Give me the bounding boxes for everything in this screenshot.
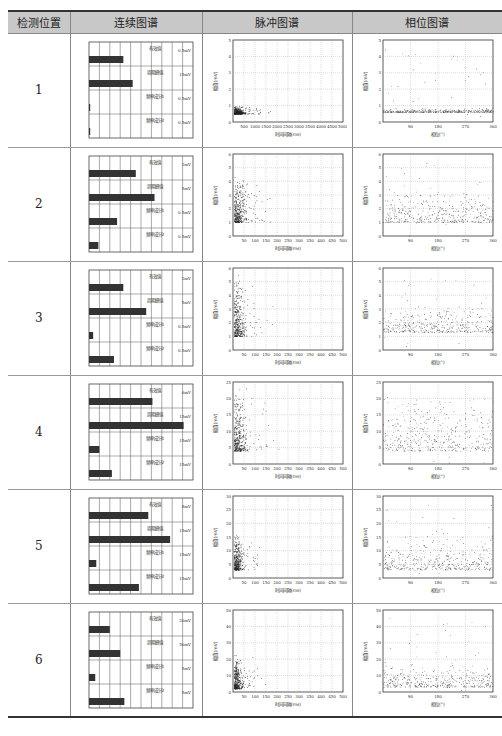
svg-text:350: 350 [306,466,314,471]
svg-text:50: 50 [226,607,232,612]
header-pulse: 脉冲图谱 [202,11,352,33]
svg-text:250: 250 [284,466,292,471]
svg-text:4500: 4500 [327,124,338,129]
svg-text:0: 0 [379,462,382,467]
detection-results-table: 检测位置 连续图谱 脉冲图谱 相位图谱 1有效值0.5mV周期峰值15mV频率成… [8,10,502,718]
continuous-unit: 15mV [179,576,191,581]
continuous-cell: 有效值0.5mV周期峰值15mV频率成分10.5mV频率成分20.5mV [70,33,202,147]
continuous-spectrum-chart: 有效值8mV周期峰值15mV频率成分115mV频率成分215mV [75,494,197,598]
continuous-label: 频率成分2 [146,117,165,124]
svg-text:450: 450 [328,580,336,585]
svg-text:360: 360 [489,124,497,129]
svg-text:30: 30 [226,640,232,645]
svg-text:幅值(mV): 幅值(mV) [362,71,369,90]
svg-text:10: 10 [376,429,382,434]
svg-text:3: 3 [379,307,382,312]
continuous-label: 周期峰值 [147,69,164,76]
continuous-spectrum-chart: 有效值0.5mV周期峰值15mV频率成分10.5mV频率成分20.5mV [75,38,197,142]
svg-text:90: 90 [408,466,414,471]
svg-text:3: 3 [379,193,382,198]
svg-text:40: 40 [226,624,232,629]
svg-text:400: 400 [317,694,325,699]
svg-text:5: 5 [228,38,231,43]
position-cell: 2 [8,147,70,261]
continuous-unit: 15mV [179,528,191,533]
svg-text:150: 150 [262,694,270,699]
svg-text:相位(°): 相位(°) [431,359,445,366]
phase-cell: 051015202590180270360幅值(mV)相位(°) [352,375,502,489]
svg-text:6: 6 [228,152,231,157]
svg-text:时间间隔(ms): 时间间隔(ms) [275,359,301,366]
svg-text:幅值(mV): 幅值(mV) [362,527,369,546]
svg-text:25: 25 [376,380,382,385]
continuous-label: 周期峰值 [147,297,164,304]
table-header-row: 检测位置 连续图谱 脉冲图谱 相位图谱 [8,11,502,33]
svg-text:1500: 1500 [261,124,272,129]
continuous-unit: 0.5mV [178,48,191,53]
svg-text:1: 1 [228,103,231,108]
continuous-label: 频率成分2 [146,231,165,238]
svg-text:0: 0 [379,234,382,239]
continuous-unit: 20mV [179,618,191,623]
svg-text:180: 180 [434,694,442,699]
pulse-cell: 0123455001000150020002500300035004000450… [202,33,352,147]
svg-text:2500: 2500 [283,124,294,129]
pulse-cell: 0510152025305010015020025030035040045050… [202,489,352,603]
svg-text:300: 300 [295,580,303,585]
svg-text:350: 350 [306,580,314,585]
svg-text:5: 5 [228,165,231,170]
table-row: 1有效值0.5mV周期峰值15mV频率成分10.5mV频率成分20.5mV012… [8,33,502,147]
svg-text:15: 15 [226,535,232,540]
table-row: 4有效值6mV周期峰值15mV频率成分115mV频率成分215mV0510152… [8,375,502,489]
svg-text:360: 360 [489,238,497,243]
continuous-spectrum-chart: 有效值6mV周期峰值15mV频率成分115mV频率成分215mV [75,380,197,484]
continuous-unit: 2mV [182,162,191,167]
svg-text:200: 200 [273,352,281,357]
continuous-unit: 15mV [179,72,191,77]
continuous-label: 频率成分1 [146,435,165,442]
svg-text:幅值(mV): 幅值(mV) [362,299,369,318]
svg-text:2000: 2000 [272,124,283,129]
pulse-cell: 051015202550100150200250300350400450500幅… [202,375,352,489]
continuous-spectrum-chart: 有效值2mV周期峰值5mV频率成分10.5mV频率成分20.5mV [75,266,197,370]
svg-text:6: 6 [228,266,231,271]
svg-text:50: 50 [241,352,247,357]
svg-text:180: 180 [434,238,442,243]
svg-text:0: 0 [228,234,231,239]
continuous-unit: 0.5mV [178,234,191,239]
svg-text:10: 10 [226,548,232,553]
continuous-unit: 0.5mV [178,120,191,125]
svg-text:2: 2 [228,87,231,92]
continuous-label: 周期峰值 [147,411,164,418]
header-phase: 相位图谱 [352,11,502,33]
pulse-cell: 012345650100150200250300350400450500幅值(m… [202,261,352,375]
svg-text:4: 4 [379,179,382,184]
svg-text:4: 4 [228,54,231,59]
svg-text:时间间隔(ms): 时间间隔(ms) [275,245,301,252]
svg-text:0: 0 [228,576,231,581]
svg-text:20: 20 [226,521,232,526]
svg-text:15: 15 [226,412,232,417]
continuous-unit: 0.5mV [178,96,191,101]
svg-text:相位(°): 相位(°) [431,587,445,594]
svg-text:3: 3 [379,70,382,75]
continuous-label: 周期峰值 [147,183,164,190]
svg-text:2: 2 [379,87,382,92]
svg-text:5: 5 [228,445,231,450]
svg-text:500: 500 [240,124,248,129]
continuous-unit: 50mV [179,642,191,647]
phase-spectrum-chart: 012345690180270360幅值(mV)相位(°) [357,150,497,258]
svg-text:0: 0 [228,120,231,125]
svg-text:180: 180 [434,466,442,471]
header-continuous: 连续图谱 [70,11,202,33]
svg-text:时间间隔(ms): 时间间隔(ms) [275,587,301,594]
continuous-unit: 5mV [182,186,191,191]
svg-text:10: 10 [376,548,382,553]
phase-spectrum-chart: 05101520253090180270360幅值(mV)相位(°) [357,492,497,600]
table-caption [30,0,430,8]
svg-text:100: 100 [251,238,259,243]
pulse-cell: 0102030405050100150200250300350400450500… [202,603,352,717]
svg-text:90: 90 [408,238,414,243]
svg-text:90: 90 [408,580,414,585]
svg-text:270: 270 [462,124,470,129]
